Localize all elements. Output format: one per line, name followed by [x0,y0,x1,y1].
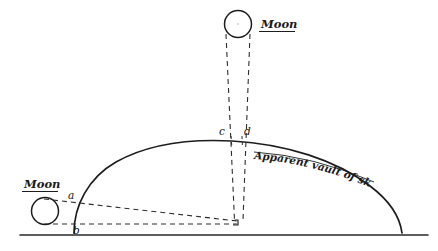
moon-zenith-center-dot [237,23,238,24]
label-point-a: a [68,189,74,201]
label-apparent-vault-of-sky: Apparent vault of sky [0,0,373,189]
sightline-zenith-left [226,34,235,220]
sightline-horizon-upper [44,199,237,221]
label-moon-zenith: Moon [260,17,297,31]
label-point-c: c [219,125,225,137]
label-moon-horizon: Moon [23,177,60,191]
sky-vault-arc [74,141,402,233]
moon-horizon-circle [32,198,59,225]
label-point-d: d [244,125,251,137]
label-point-b: b [73,224,80,236]
moon-illusion-diagram: Moon Moon a b c d Apparent vault of sky [0,0,438,251]
